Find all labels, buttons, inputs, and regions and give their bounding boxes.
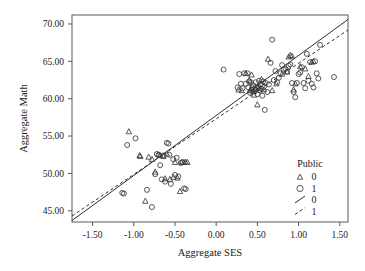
y-tick-label: 65.00	[43, 57, 65, 67]
legend-marker-triangle	[297, 174, 302, 179]
legend-marker-line-solid	[295, 196, 305, 203]
x-axis-title: Aggregate SES	[178, 247, 243, 258]
legend-marker-circle	[297, 185, 303, 191]
x-tick-label: -1.00	[124, 230, 144, 240]
data-point-circle	[149, 205, 154, 210]
x-tick-label: -1.50	[83, 230, 103, 240]
data-point-circle	[306, 78, 311, 83]
data-point-circle	[221, 67, 226, 72]
legend-entry-label: 1	[312, 183, 317, 194]
data-point-circle	[317, 42, 322, 47]
data-point-circle	[303, 86, 308, 91]
data-point-triangle	[126, 129, 131, 134]
data-point-circle	[262, 107, 267, 112]
data-point-triangle	[306, 73, 311, 78]
data-point-triangle	[270, 88, 275, 93]
x-tick-label: -0.50	[165, 230, 185, 240]
legend: Public0101	[295, 158, 323, 217]
data-points-layer	[120, 37, 337, 209]
legend-entry-label: 0	[312, 194, 317, 205]
data-point-circle	[166, 141, 171, 146]
data-point-circle	[270, 37, 275, 42]
data-point-circle	[183, 187, 188, 192]
axis-layer	[68, 15, 348, 226]
data-point-circle	[144, 187, 149, 192]
y-tick-label: 55.00	[43, 131, 65, 141]
x-tick-label: 0.00	[208, 230, 225, 240]
data-point-circle	[314, 71, 319, 76]
legend-entry-label: 0	[312, 171, 317, 182]
legend-marker-line-dashed	[295, 208, 305, 215]
x-tick-label: 0.50	[249, 230, 266, 240]
regression-line-public-0	[72, 19, 348, 220]
data-point-circle	[158, 163, 163, 168]
data-point-circle	[331, 75, 336, 80]
data-point-triangle	[255, 102, 260, 107]
data-point-circle	[260, 93, 265, 98]
chart-figure: -1.50-1.00-0.500.000.501.001.5045.0050.0…	[0, 0, 365, 271]
legend-title: Public	[297, 158, 323, 169]
y-tick-label: 60.00	[43, 94, 65, 104]
data-point-circle	[133, 136, 138, 141]
data-point-circle	[301, 81, 306, 86]
y-tick-label: 70.00	[43, 19, 65, 29]
data-point-triangle	[302, 66, 307, 71]
x-tick-label: 1.00	[290, 230, 307, 240]
scatter-plot-svg: -1.50-1.00-0.500.000.501.001.5045.0050.0…	[0, 0, 365, 271]
data-point-circle	[304, 51, 309, 56]
data-point-circle	[316, 76, 321, 81]
regression-line-layer	[72, 19, 348, 220]
data-point-circle	[293, 95, 298, 100]
x-tick-label: 1.50	[331, 230, 348, 240]
data-point-circle	[168, 181, 173, 186]
regression-line-public-1	[72, 30, 348, 216]
y-tick-label: 50.00	[43, 169, 65, 179]
data-point-triangle	[143, 198, 148, 203]
y-tick-label: 45.00	[43, 206, 65, 216]
data-point-circle	[125, 143, 130, 148]
legend-entry-label: 1	[312, 206, 317, 217]
data-point-circle	[237, 72, 242, 77]
y-axis-title: Aggregate Math	[18, 83, 29, 152]
data-point-circle	[121, 191, 126, 196]
